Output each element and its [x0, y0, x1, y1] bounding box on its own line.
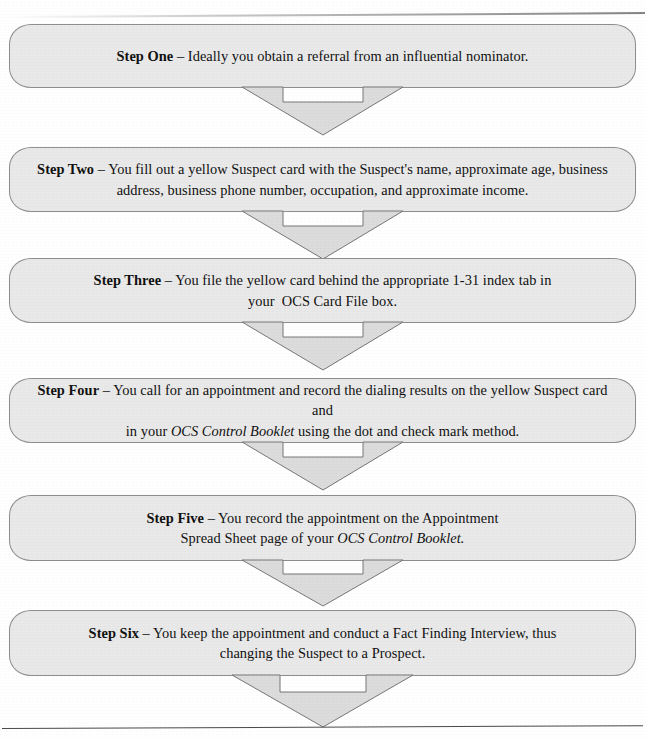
step-box-two[interactable]: Step Two – You fill out a yellow Suspect…: [9, 147, 636, 212]
step-six-line-1: You keep the appointment and conduct a F…: [153, 625, 556, 641]
step-one-label: Step One: [117, 48, 174, 64]
step-five-text: Step Five – You record the appointment o…: [146, 508, 498, 549]
step-four-text: Step Four – You call for an appointment …: [32, 380, 613, 441]
step-six-line-2: changing the Suspect to a Prospect.: [220, 645, 426, 661]
step-box-one[interactable]: Step One – Ideally you obtain a referral…: [9, 24, 636, 88]
step-four-dash: –: [99, 382, 113, 398]
step-box-four[interactable]: Step Four – You call for an appointment …: [9, 378, 636, 443]
scan-artifact-line-top: [8, 12, 645, 18]
step-one-line-1: Ideally you obtain a referral from an in…: [188, 48, 529, 64]
step-five-line-1-a: You record the appointment on the Appoin…: [218, 510, 499, 526]
step-five-line-2-italic: OCS Control Booklet.: [337, 530, 464, 546]
step-four-line-1-a: You call for an appointment and record t…: [113, 382, 607, 418]
step-four-line-2-c: using the dot and check mark method.: [294, 423, 519, 439]
flowchart-canvas: Step One – Ideally you obtain a referral…: [0, 0, 645, 738]
step-three-line-1: You file the yellow card behind the appr…: [175, 272, 551, 288]
step-three-text: Step Three – You file the yellow card be…: [94, 270, 552, 311]
step-two-label: Step Two: [37, 161, 94, 177]
arrow-one-to-two: [242, 86, 404, 136]
arrow-six-to-end: [232, 674, 414, 728]
step-six-label: Step Six: [89, 625, 139, 641]
step-four-line-2-a: in your: [126, 423, 171, 439]
step-box-five[interactable]: Step Five – You record the appointment o…: [9, 495, 636, 561]
step-one-text: Step One – Ideally you obtain a referral…: [117, 46, 529, 66]
step-one-dash: –: [173, 48, 188, 64]
step-two-dash: –: [94, 161, 108, 177]
step-five-dash: –: [204, 510, 218, 526]
step-six-text: Step Six – You keep the appointment and …: [89, 623, 557, 664]
step-five-line-2-a: Spread Sheet page of your: [181, 530, 338, 546]
step-four-line-2-italic: OCS Control Booklet: [171, 423, 295, 439]
step-three-dash: –: [161, 272, 175, 288]
step-four-label: Step Four: [38, 382, 100, 398]
step-three-line-2: your OCS Card File box.: [248, 293, 397, 309]
arrow-two-to-three: [242, 210, 404, 260]
step-two-line-1: You fill out a yellow Suspect card with …: [108, 161, 608, 177]
page-bottom-rule: [2, 725, 643, 729]
step-box-three[interactable]: Step Three – You file the yellow card be…: [9, 258, 636, 323]
arrow-five-to-six: [242, 559, 404, 607]
step-six-dash: –: [139, 625, 153, 641]
step-two-line-2: address, business phone number, occupati…: [117, 182, 529, 198]
step-five-label: Step Five: [146, 510, 204, 526]
arrow-three-to-four: [242, 321, 404, 371]
arrow-four-to-five: [242, 441, 404, 491]
step-three-label: Step Three: [94, 272, 162, 288]
step-box-six[interactable]: Step Six – You keep the appointment and …: [9, 610, 636, 676]
step-two-text: Step Two – You fill out a yellow Suspect…: [37, 159, 608, 200]
